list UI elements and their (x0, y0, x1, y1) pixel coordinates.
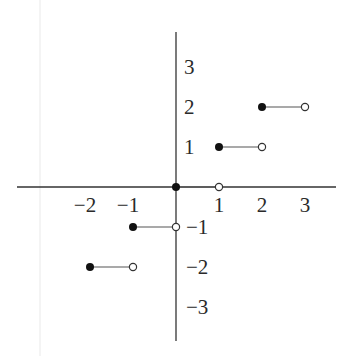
step-segment (258, 103, 309, 111)
x-tick-label: 1 (214, 193, 225, 217)
open-endpoint-dot (301, 103, 308, 110)
closed-endpoint-dot (258, 103, 266, 111)
y-tick-label: −1 (186, 215, 208, 239)
x-tick-label: 2 (257, 193, 268, 217)
y-tick-label: 3 (184, 55, 195, 79)
open-endpoint-dot (172, 223, 179, 230)
closed-endpoint-dot (172, 183, 180, 191)
step-segment (86, 263, 137, 271)
open-endpoint-dot (129, 263, 136, 270)
open-endpoint-dot (215, 183, 222, 190)
step-segment (129, 223, 180, 231)
step-function-chart: −2−1123321−1−2−3 (0, 0, 355, 356)
open-endpoint-dot (258, 143, 265, 150)
closed-endpoint-dot (129, 223, 137, 231)
closed-endpoint-dot (86, 263, 94, 271)
x-tick-label: 3 (300, 193, 311, 217)
closed-endpoint-dot (215, 143, 223, 151)
step-segment (215, 143, 266, 151)
x-tick-label: −1 (117, 193, 139, 217)
y-tick-label: −2 (186, 255, 208, 279)
y-tick-label: −3 (186, 295, 208, 319)
y-tick-label: 1 (184, 135, 195, 159)
step-segment (172, 183, 223, 191)
y-tick-label: 2 (184, 95, 195, 119)
x-tick-label: −2 (74, 193, 96, 217)
